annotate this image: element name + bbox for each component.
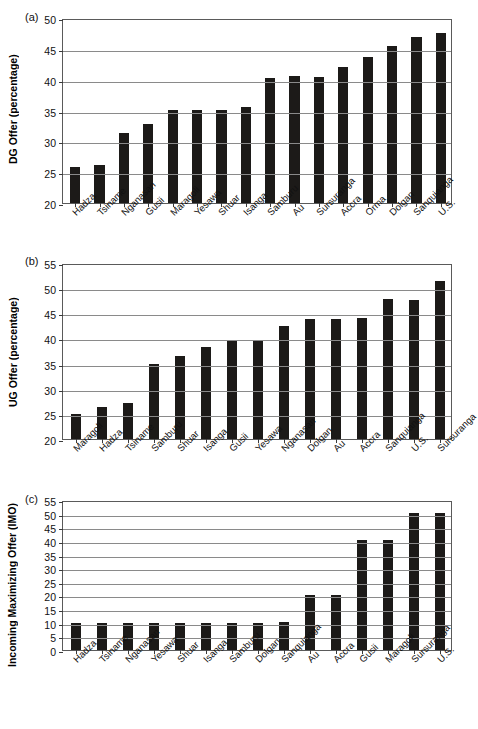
x-tick-label: Au xyxy=(331,438,347,454)
panel-b-plot-area: 2025303540455055 xyxy=(62,264,452,440)
bar xyxy=(71,623,82,650)
y-axis-tick xyxy=(59,113,63,114)
gridline xyxy=(63,597,451,598)
y-axis-tick xyxy=(59,638,63,639)
y-axis-tick xyxy=(59,51,63,52)
x-tick-label: Au xyxy=(305,649,321,665)
y-axis-tick xyxy=(59,82,63,83)
y-axis-tick xyxy=(59,625,63,626)
panel-a-bars xyxy=(63,20,451,203)
panel-a-tag: (a) xyxy=(25,11,38,23)
bar xyxy=(387,46,397,203)
y-tick-label: 10 xyxy=(44,619,56,631)
y-axis-tick xyxy=(59,265,63,266)
y-axis-tick xyxy=(59,570,63,571)
bar xyxy=(363,57,373,203)
y-tick-label: 40 xyxy=(44,334,56,346)
y-tick-label: 50 xyxy=(44,14,56,26)
y-tick-label: 25 xyxy=(44,410,56,422)
gridline xyxy=(63,543,451,544)
y-axis-tick xyxy=(59,529,63,530)
bar xyxy=(411,37,421,204)
bar xyxy=(279,622,290,650)
gridline xyxy=(63,570,451,571)
bar xyxy=(357,318,368,439)
y-axis-tick xyxy=(59,391,63,392)
y-axis-tick xyxy=(59,502,63,503)
panel-a-y-axis-label: DG Offer (percentage) xyxy=(7,24,19,194)
gridline xyxy=(63,391,451,392)
y-axis-tick xyxy=(59,174,63,175)
panel-c-bars xyxy=(63,502,451,650)
bar xyxy=(70,167,80,203)
y-tick-label: 30 xyxy=(44,564,56,576)
y-tick-label: 20 xyxy=(44,435,56,447)
bar xyxy=(201,623,212,650)
y-axis-tick xyxy=(59,290,63,291)
bar xyxy=(331,319,342,439)
y-tick-label: 35 xyxy=(44,551,56,563)
y-axis-tick xyxy=(59,315,63,316)
gridline xyxy=(63,516,451,517)
bar xyxy=(227,623,238,650)
y-tick-label: 50 xyxy=(44,510,56,522)
panel-b-tag: (b) xyxy=(25,255,38,267)
gridline xyxy=(63,557,451,558)
y-tick-label: 45 xyxy=(44,309,56,321)
y-tick-label: 20 xyxy=(44,591,56,603)
y-tick-label: 35 xyxy=(44,360,56,372)
y-axis-tick xyxy=(59,441,63,442)
gridline xyxy=(63,82,451,83)
y-axis-tick xyxy=(59,340,63,341)
panel-c-plot-area: 0510152025303540455055 xyxy=(62,501,452,651)
y-tick-label: 0 xyxy=(50,646,56,658)
gridline xyxy=(63,625,451,626)
y-tick-label: 55 xyxy=(44,259,56,271)
y-tick-label: 45 xyxy=(44,523,56,535)
y-tick-label: 20 xyxy=(44,199,56,211)
bar xyxy=(331,595,342,650)
panel-a-plot-area: 20253035404550 xyxy=(62,19,452,204)
y-tick-label: 30 xyxy=(44,385,56,397)
bar xyxy=(168,110,178,203)
bar xyxy=(241,107,251,203)
y-axis-tick xyxy=(59,543,63,544)
y-axis-tick xyxy=(59,597,63,598)
bar xyxy=(279,326,290,439)
gridline xyxy=(63,611,451,612)
gridline xyxy=(63,416,451,417)
y-tick-label: 40 xyxy=(44,537,56,549)
y-axis-tick xyxy=(59,143,63,144)
bar xyxy=(314,77,324,203)
gridline xyxy=(63,366,451,367)
y-axis-tick xyxy=(59,366,63,367)
gridline xyxy=(63,174,451,175)
gridline xyxy=(63,51,451,52)
y-tick-label: 25 xyxy=(44,578,56,590)
bar xyxy=(383,299,394,439)
gridline xyxy=(63,290,451,291)
gridline xyxy=(63,143,451,144)
y-tick-label: 25 xyxy=(44,168,56,180)
panel-b: (b) UG Offer (percentage) 20253035404550… xyxy=(0,245,472,485)
gridline xyxy=(63,315,451,316)
y-axis-tick xyxy=(59,557,63,558)
gridline xyxy=(63,584,451,585)
y-tick-label: 35 xyxy=(44,107,56,119)
y-axis-tick xyxy=(59,611,63,612)
y-tick-label: 30 xyxy=(44,137,56,149)
y-axis-tick xyxy=(59,205,63,206)
y-tick-label: 50 xyxy=(44,284,56,296)
bar xyxy=(265,78,275,203)
y-tick-label: 55 xyxy=(44,496,56,508)
y-tick-label: 40 xyxy=(44,76,56,88)
gridline xyxy=(63,340,451,341)
y-axis-tick xyxy=(59,652,63,653)
y-tick-label: 45 xyxy=(44,45,56,57)
bar xyxy=(201,347,212,439)
y-axis-tick xyxy=(59,20,63,21)
y-tick-label: 15 xyxy=(44,605,56,617)
gridline xyxy=(63,529,451,530)
x-tick-label: Au xyxy=(290,202,306,218)
